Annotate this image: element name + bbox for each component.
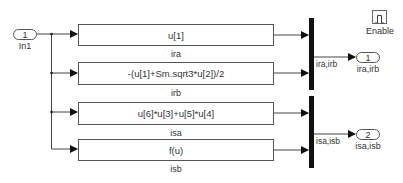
fcn-block-isa[interactable]: u[6]*u[3]+u[5]*u[4]: [78, 102, 274, 125]
fcn-label-isa: isa: [78, 128, 274, 138]
fcn-label-irb: irb: [78, 88, 274, 98]
outport-number: 1: [365, 53, 370, 63]
outport-number: 2: [365, 130, 370, 140]
inport-number: 1: [22, 30, 27, 40]
inport-1[interactable]: 1: [13, 29, 37, 40]
fcn-expression: u[6]*u[3]+u[5]*u[4]: [138, 108, 214, 119]
pulse-icon: [373, 13, 386, 25]
outport-2[interactable]: 2: [356, 129, 380, 140]
fcn-label-ira: ira: [78, 49, 274, 59]
signal-label-is: isa,isb: [316, 136, 340, 146]
outport-1[interactable]: 1: [356, 52, 380, 63]
fcn-expression: u[1]: [168, 30, 184, 41]
outport-label-1: ira,irb: [348, 64, 388, 74]
fcn-block-ira[interactable]: u[1]: [78, 24, 274, 46]
enable-port[interactable]: [372, 10, 387, 24]
mux-is[interactable]: [309, 96, 314, 168]
fcn-label-isb: isb: [78, 164, 274, 174]
fcn-block-irb[interactable]: -(u[1]+Sm.sqrt3*u[2])/2: [78, 62, 274, 85]
fcn-expression: -(u[1]+Sm.sqrt3*u[2])/2: [128, 68, 224, 79]
fcn-block-isb[interactable]: f(u): [78, 139, 274, 161]
inport-label: In1: [10, 41, 40, 51]
outport-label-2: isa,isb: [348, 141, 388, 151]
enable-label: Enable: [360, 26, 400, 36]
fcn-expression: f(u): [169, 145, 183, 156]
mux-ir[interactable]: [309, 18, 314, 90]
signal-label-ir: ira,irb: [316, 59, 337, 69]
